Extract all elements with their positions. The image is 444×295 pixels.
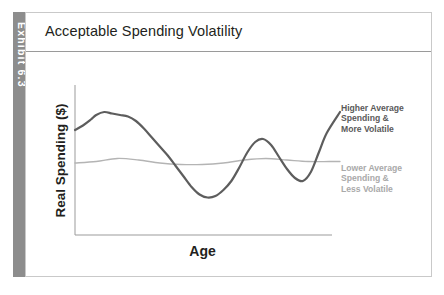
legend-higher-line-1: Higher Average (341, 103, 404, 113)
legend-higher-line-3: More Volatile (341, 124, 404, 134)
exhibit-figure: Exhibit 6.3 Acceptable Spending Volatili… (0, 0, 444, 295)
title-divider (26, 51, 431, 52)
legend-lower-line-2: Spending & (341, 173, 402, 183)
series-lower-average-line (75, 158, 340, 164)
series-higher-average-line (75, 112, 340, 198)
page-title: Acceptable Spending Volatility (45, 23, 242, 39)
legend-label-lower-average: Lower Average Spending & Less Volatile (341, 163, 402, 194)
legend-lower-line-1: Lower Average (341, 163, 402, 173)
legend-lower-line-3: Less Volatile (341, 184, 402, 194)
legend-label-higher-average: Higher Average Spending & More Volatile (341, 103, 404, 134)
legend-higher-line-2: Spending & (341, 113, 404, 123)
